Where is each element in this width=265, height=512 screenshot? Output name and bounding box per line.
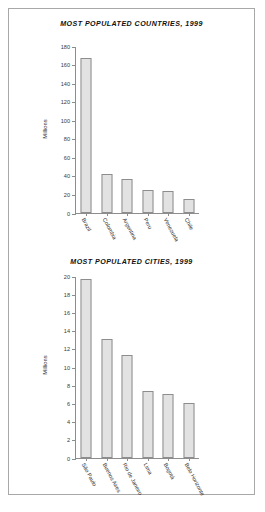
y-tick-label: 6 (67, 400, 70, 409)
bar (81, 279, 92, 458)
plot-area-countries: 020406080100120140160180 BrazilColombiaA… (75, 47, 199, 214)
x-tick-mark (168, 458, 169, 461)
x-tick-mark (168, 213, 169, 216)
x-tick-label: Venezuela (162, 217, 180, 243)
bar-group: Rio de Janeiro (117, 277, 138, 458)
y-tick-label: 60 (64, 154, 70, 163)
y-tick-label: 18 (64, 291, 70, 300)
bar-group: Venezuela (158, 47, 179, 213)
bar-group: Bogotá (158, 277, 179, 458)
y-tick-label: 12 (64, 345, 70, 354)
y-tick-label: 180 (61, 43, 70, 52)
x-tick-label: Rio de Janeiro (121, 462, 144, 497)
y-tick-label: 140 (61, 80, 70, 89)
bar-group: Buenos Aires (97, 277, 118, 458)
y-tick-label: 0 (67, 455, 70, 464)
y-tick-mark (72, 214, 76, 215)
x-axis-line (75, 213, 199, 214)
y-tick-label: 20 (64, 273, 70, 282)
plot-area-cities: 02468101214161820 São PauloBuenos AiresR… (75, 277, 199, 459)
bar-group: Belo Horizonte (179, 277, 200, 458)
x-tick-mark (127, 213, 128, 216)
bar (101, 174, 112, 213)
x-tick-mark (86, 458, 87, 461)
y-axis-label-cities: Millions (42, 355, 48, 374)
x-tick-mark (189, 458, 190, 461)
x-axis-line (75, 458, 199, 459)
bars-layer-countries: BrazilColombiaArgentinaPeruVenezuelaChil… (76, 47, 199, 213)
x-tick-label: Chile (183, 217, 195, 231)
x-tick-label: Lima (142, 462, 154, 476)
y-tick-label: 20 (64, 191, 70, 200)
x-tick-mark (148, 213, 149, 216)
y-tick-label: 4 (67, 418, 70, 427)
x-tick-mark (127, 458, 128, 461)
y-tick-mark (72, 459, 76, 460)
chart-title-cities: MOST POPULATED CITIES, 1999 (9, 258, 254, 266)
y-tick-label: 10 (64, 364, 70, 373)
y-tick-label: 80 (64, 135, 70, 144)
bar-group: Peru (138, 47, 159, 213)
bar (122, 179, 133, 213)
bars-layer-cities: São PauloBuenos AiresRio de JaneiroLimaB… (76, 277, 199, 458)
bar (163, 191, 174, 213)
bar-group: Brazil (76, 47, 97, 213)
y-axis-label-countries: Millions (42, 119, 48, 138)
y-tick-label: 14 (64, 327, 70, 336)
y-tick-label: 8 (67, 382, 70, 391)
x-tick-mark (107, 458, 108, 461)
x-tick-label: Peru (142, 217, 154, 231)
bar (122, 355, 133, 458)
page-frame: MOST POPULATED COUNTRIES, 1999 Millions … (8, 8, 255, 495)
x-tick-label: Argentina (121, 217, 138, 241)
x-tick-label: São Paulo (80, 462, 98, 488)
y-tick-label: 120 (61, 98, 70, 107)
bar-group: São Paulo (76, 277, 97, 458)
y-tick-label: 40 (64, 172, 70, 181)
bar-group: Colombia (97, 47, 118, 213)
y-tick-label: 16 (64, 309, 70, 318)
bar (81, 58, 92, 213)
x-tick-label: Colombia (101, 217, 118, 241)
x-tick-label: Bogotá (162, 462, 176, 481)
x-tick-label: Belo Horizonte (183, 462, 206, 497)
bar (163, 394, 174, 458)
bar (183, 199, 194, 213)
x-tick-mark (107, 213, 108, 216)
y-tick-label: 0 (67, 210, 70, 219)
x-tick-mark (86, 213, 87, 216)
bar (142, 190, 153, 213)
chart-cities: MOST POPULATED CITIES, 1999 Millions 024… (9, 249, 254, 494)
bar-group: Chile (179, 47, 200, 213)
bar (183, 403, 194, 458)
x-tick-mark (189, 213, 190, 216)
x-tick-label: Buenos Aires (101, 462, 122, 494)
bar-group: Lima (138, 277, 159, 458)
bar (101, 339, 112, 458)
y-tick-label: 2 (67, 436, 70, 445)
chart-countries: MOST POPULATED COUNTRIES, 1999 Millions … (9, 9, 254, 249)
bar (142, 391, 153, 458)
x-tick-label: Brazil (80, 217, 93, 232)
y-tick-label: 160 (61, 61, 70, 70)
x-tick-mark (148, 458, 149, 461)
y-tick-label: 100 (61, 117, 70, 126)
bar-group: Argentina (117, 47, 138, 213)
chart-title-countries: MOST POPULATED COUNTRIES, 1999 (9, 20, 254, 28)
